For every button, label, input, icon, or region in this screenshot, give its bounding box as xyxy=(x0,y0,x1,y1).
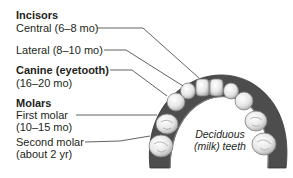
central-incisor-label: Central (6–8 mo) xyxy=(16,22,99,34)
first-molar-age-label: (10–15 mo) xyxy=(16,121,72,133)
caption-line-2: (milk) teeth xyxy=(175,140,265,152)
canine-right-tooth xyxy=(235,92,253,110)
diagram-caption: Deciduous (milk) teeth xyxy=(175,128,265,152)
central-incisor-right-tooth xyxy=(210,79,223,96)
canine-leader-line xyxy=(110,70,167,96)
second-molar-leader-line xyxy=(85,136,150,142)
canine-heading: Canine (eyetooth) xyxy=(16,64,109,76)
central-leader-line xyxy=(97,28,199,78)
canine-age-label: (16–20 mo) xyxy=(16,77,72,89)
second-molar-left-tooth xyxy=(149,135,173,157)
second-molar-age-label: (about 2 yr) xyxy=(16,148,72,160)
second-molar-label: Second molar xyxy=(16,136,84,148)
incisors-heading: Incisors xyxy=(16,9,58,21)
first-molar-label: First molar xyxy=(16,109,68,121)
caption-line-1: Deciduous xyxy=(175,128,265,140)
lateral-leader-line xyxy=(104,50,183,86)
molars-heading: Molars xyxy=(16,97,51,109)
lateral-incisor-label: Lateral (8–10 mo) xyxy=(16,44,103,56)
central-incisor-left-tooth xyxy=(196,79,209,96)
